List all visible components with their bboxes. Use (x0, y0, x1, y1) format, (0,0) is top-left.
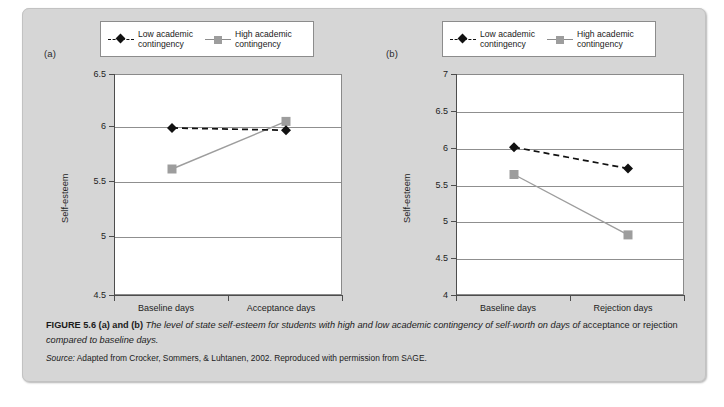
data-point-high-baseline-b (510, 170, 519, 179)
y-tick-a-6.5 (109, 74, 114, 75)
legend-entry-high-b: High academic contingency (547, 29, 634, 50)
y-tick-b-6.0 (451, 148, 456, 149)
y-label-b-4.0: 4 (416, 290, 448, 300)
x-tick-a-left (114, 296, 115, 301)
legend-high-line1-a: High academic (235, 29, 292, 39)
y-label-a-6.0: 6 (74, 121, 106, 131)
y-label-a-6.5: 6.5 (74, 69, 106, 79)
x-label-a-acceptance: Acceptance days (231, 303, 331, 313)
diamond-marker-icon (450, 34, 476, 45)
data-point-low-rejection-b (623, 164, 633, 174)
data-point-high-rejection-b (624, 230, 633, 239)
legend-entry-low-b: Low academic contingency (450, 29, 535, 50)
y-tick-b-5.5 (451, 185, 456, 186)
y-label-b-7.0: 7 (416, 69, 448, 79)
y-label-a-5.5: 5.5 (74, 176, 106, 186)
y-tick-a-5.0 (109, 236, 114, 237)
series-line-high-a (172, 121, 286, 169)
panel-label-b: (b) (386, 48, 398, 59)
series-line-high-b (514, 175, 628, 235)
series-layer-a (115, 75, 343, 296)
x-tick-b-mid (570, 296, 571, 301)
square-marker-icon (547, 34, 573, 45)
legend-label-low-b: Low academic contingency (480, 29, 535, 50)
legend-label-high-a: High academic contingency (235, 29, 292, 50)
y-axis-line-a (114, 74, 115, 296)
y-label-a-5.0: 5 (74, 231, 106, 241)
series-layer-b (457, 75, 685, 296)
series-line-low-b (514, 147, 628, 168)
square-marker-icon (205, 34, 231, 45)
caption-figure-number: FIGURE 5.6 (a) and (b) (46, 320, 143, 330)
y-tick-b-4.5 (451, 258, 456, 259)
x-label-b-baseline: Baseline days (463, 303, 553, 313)
chart-panel-a: (a) Low academic contingency (22, 8, 364, 308)
source-text: Adapted from Crocker, Sommers, & Luhtane… (77, 353, 427, 363)
y-tick-b-7.0 (451, 74, 456, 75)
chart-panel-b: (b) Low academic contingency (364, 8, 706, 308)
legend-b: Low academic contingency High academic c… (442, 21, 656, 57)
panel-label-a: (a) (44, 48, 56, 59)
legend-low-line1-b: Low academic (480, 29, 535, 39)
legend-high-line2-b: contingency (577, 39, 623, 49)
caption-italic-part-2: compared to baseline days. (46, 335, 158, 345)
y-tick-b-6.5 (451, 111, 456, 112)
legend-a: Low academic contingency High academic c… (100, 21, 314, 57)
legend-low-line1-a: Low academic (138, 29, 193, 39)
x-label-a-baseline: Baseline days (121, 303, 211, 313)
y-label-b-6.0: 6 (416, 143, 448, 153)
x-tick-a-right (342, 296, 343, 301)
caption-source: Source: Adapted from Crocker, Sommers, &… (46, 352, 682, 365)
source-label: Source: (46, 353, 75, 363)
x-label-b-rejection: Rejection days (575, 303, 671, 313)
legend-high-line1-b: High academic (577, 29, 634, 39)
y-label-b-5.5: 5.5 (416, 180, 448, 190)
legend-entry-high-a: High academic contingency (205, 29, 292, 50)
caption-plain-part: acceptance or rejection (583, 320, 678, 330)
caption-italic-part-1: The level of state self-esteem for stude… (146, 320, 581, 330)
y-tick-a-6.0 (109, 126, 114, 127)
legend-high-line2-a: contingency (235, 39, 281, 49)
plot-area-a (114, 74, 342, 295)
y-label-a-4.5: 4.5 (74, 290, 106, 300)
legend-low-line2-a: contingency (138, 39, 184, 49)
x-tick-b-right (684, 296, 685, 301)
y-axis-title-b: Self-esteem (402, 173, 412, 223)
legend-label-high-b: High academic contingency (577, 29, 634, 50)
y-label-b-5.0: 5 (416, 216, 448, 226)
data-point-high-acceptance-a (282, 117, 291, 126)
x-tick-a-mid (228, 296, 229, 301)
legend-low-line2-b: contingency (480, 39, 526, 49)
legend-label-low-a: Low academic contingency (138, 29, 193, 50)
legend-entry-low-a: Low academic contingency (108, 29, 193, 50)
figure-page: (a) Low academic contingency (0, 0, 724, 407)
data-point-low-acceptance-a (281, 125, 291, 135)
y-tick-a-5.5 (109, 181, 114, 182)
diamond-marker-icon (108, 34, 134, 45)
y-axis-line-b (456, 74, 457, 296)
data-point-high-baseline-a (168, 165, 177, 174)
figure-panel: (a) Low academic contingency (22, 8, 706, 382)
y-tick-b-5.0 (451, 221, 456, 222)
plot-area-b (456, 74, 684, 295)
y-label-b-6.5: 6.5 (416, 106, 448, 116)
caption-main: FIGURE 5.6 (a) and (b) The level of stat… (46, 318, 682, 347)
x-tick-b-left (456, 296, 457, 301)
y-label-b-4.5: 4.5 (416, 253, 448, 263)
y-axis-title-a: Self-esteem (60, 173, 70, 223)
figure-caption: FIGURE 5.6 (a) and (b) The level of stat… (46, 318, 682, 365)
data-point-low-baseline-a (167, 123, 177, 133)
data-point-low-baseline-b (509, 142, 519, 152)
